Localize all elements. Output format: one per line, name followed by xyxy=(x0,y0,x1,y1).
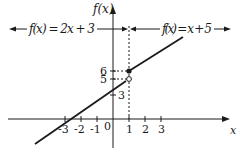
left-arrow-icon xyxy=(9,27,16,32)
piece-1-label: f(x) = 2x + 3 xyxy=(28,22,95,36)
x-tick-label: -3 xyxy=(58,123,69,136)
y-axis-label: f(x) xyxy=(92,2,114,16)
right-arrow-icon xyxy=(224,27,231,32)
x-axis-label: x xyxy=(230,124,237,137)
x-axis-arrow-icon xyxy=(222,116,230,122)
x-tick-label: 1 xyxy=(126,123,133,136)
origin-label: 0 xyxy=(104,120,111,133)
piece-2-label: f(x) = x + 5 xyxy=(161,22,212,36)
line-x-plus-5 xyxy=(129,37,183,71)
closed-dot-icon xyxy=(126,68,131,73)
x-tick-label: 2 xyxy=(142,123,149,136)
y-tick-label: 5 xyxy=(100,73,107,86)
boundary-arrow-left-icon xyxy=(122,27,128,32)
x-tick-label: -2 xyxy=(74,123,85,136)
x-tick-label: 3 xyxy=(158,123,165,136)
y-tick-label: 3 xyxy=(118,89,125,102)
x-tick-label: -1 xyxy=(90,123,101,136)
piecewise-graph: f(x) x f(x) = 2x + 3 f(x) = x + 5 -3 -2 … xyxy=(0,0,237,149)
open-circle-icon xyxy=(127,77,132,82)
